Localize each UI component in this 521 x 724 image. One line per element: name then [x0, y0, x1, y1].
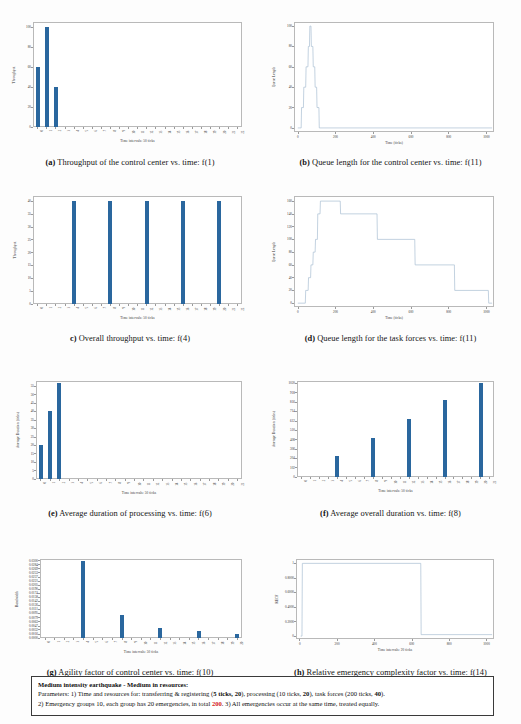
x-tick-label: 3 [67, 307, 71, 309]
notice-l2-e: ), task forces (200 ticks, [309, 690, 374, 697]
y-tick-mark [295, 477, 297, 478]
x-tick-label: 14 [168, 131, 172, 134]
y-tick-label: 55 [23, 384, 34, 388]
x-tick-mark [373, 132, 374, 134]
plot-area [297, 381, 494, 477]
y-tick-label: 0.0047 [22, 624, 38, 628]
x-tick-mark [174, 304, 175, 306]
notice-l3-c: . 3) All emergencies occur at the same t… [222, 700, 379, 707]
x-tick-mark [73, 638, 74, 640]
notice-l3-total: 200 [212, 700, 222, 707]
y-tick-mark [38, 581, 40, 582]
x-tick-mark [162, 479, 163, 481]
y-tick-label: 0.0079 [22, 616, 38, 620]
y-tick-label: 0.0126 [22, 603, 38, 607]
y-tick-label: 816 [279, 400, 295, 404]
x-tick-mark [480, 477, 481, 479]
notice-line-3: 2) Emergency groups 10, each group has 2… [38, 699, 488, 708]
x-tick-label: 16 [448, 481, 452, 484]
x-tick-mark [87, 479, 88, 481]
plot-area [33, 22, 242, 127]
x-tick-mark [119, 127, 120, 129]
x-tick-mark [436, 477, 437, 479]
x-tick-label: 9 [384, 480, 388, 482]
y-tick-label: 0.0158 [22, 595, 38, 599]
x-tick-label: 800 [446, 135, 451, 139]
y-tick-label: 0.0142 [22, 599, 38, 603]
y-tick-mark [31, 227, 33, 228]
x-tick-label: 400 [371, 135, 376, 139]
x-tick-label: 11 [140, 308, 144, 311]
x-tick-label: 1 [57, 641, 61, 643]
y-tick-label: 0.0300 [22, 559, 38, 563]
x-tick-mark [462, 477, 463, 479]
y-tick-label: 0.0174 [22, 591, 38, 595]
y-tick-mark [34, 437, 36, 438]
y-tick-label: 20 [23, 443, 34, 447]
bar [54, 87, 58, 127]
x-tick-label: 19 [230, 642, 234, 645]
chart-b: Queue Length0204060801000200400600800100… [260, 0, 521, 190]
x-tick-mark [189, 638, 190, 640]
x-tick-label: 0 [297, 135, 299, 139]
y-tick-mark [38, 585, 40, 586]
x-tick-label: 15 [192, 642, 196, 645]
x-tick-label: 17 [203, 483, 207, 486]
x-tick-label: 11 [403, 481, 407, 484]
y-tick-label: 0.0237 [22, 575, 38, 579]
x-tick-label: 1 [52, 482, 56, 484]
x-tick-mark [150, 638, 151, 640]
x-axis-label: Time intervals: 20 ticks [378, 648, 412, 652]
y-tick-mark [34, 394, 36, 395]
x-tick-mark [201, 304, 202, 306]
bar [72, 201, 76, 304]
figure-sheet: Throughput020406080100012345678910111213… [0, 0, 521, 724]
x-tick-mark [92, 127, 93, 129]
line-series [260, 190, 521, 390]
y-tick-mark [38, 621, 40, 622]
y-tick-mark [34, 428, 36, 429]
x-tick-mark [337, 477, 338, 479]
y-tick-label: 35 [20, 212, 31, 216]
x-tick-mark [134, 479, 135, 481]
x-tick-label: 11 [147, 483, 151, 486]
x-tick-label: 20 [231, 483, 235, 486]
x-tick-label: 400 [372, 642, 377, 646]
x-tick-mark [55, 127, 56, 129]
bar [371, 438, 375, 477]
chart-caption: (e) Average duration of processing vs. t… [0, 509, 260, 518]
x-tick-label: 17 [211, 642, 215, 645]
x-tick-label: 4 [85, 641, 89, 643]
y-tick-label: 40 [19, 85, 31, 89]
y-tick-label: 30 [20, 225, 31, 229]
chart-cell: Average Duration (ticks)0510152025303540… [0, 375, 260, 555]
x-tick-mark [335, 132, 336, 134]
line-series [260, 0, 521, 200]
y-tick-mark [295, 421, 297, 422]
y-tick-label: 60 [19, 65, 31, 69]
x-tick-label: 2 [58, 307, 62, 309]
x-tick-label: 1000 [483, 135, 490, 139]
y-tick-mark [38, 589, 40, 590]
notice-title: Medium intensity earthquake - Medium in … [38, 680, 488, 689]
x-tick-mark [391, 477, 392, 479]
x-tick-label: 20 [483, 481, 487, 484]
y-tick-mark [38, 617, 40, 618]
x-tick-label: 8 [112, 307, 116, 309]
x-tick-label: 22 [240, 308, 244, 311]
x-tick-mark [310, 477, 311, 479]
x-tick-mark [174, 127, 175, 129]
x-tick-mark [198, 638, 199, 640]
x-tick-mark [411, 307, 412, 309]
y-axis-label: Bandwidth [15, 591, 19, 607]
x-tick-mark [40, 479, 41, 481]
x-tick-mark [181, 479, 182, 481]
x-tick-label: 21 [492, 481, 496, 484]
notice-l2-g: ). [381, 690, 385, 697]
x-tick-mark [143, 479, 144, 481]
x-tick-mark [412, 639, 413, 641]
notice-box: Medium intensity earthquake - Medium in … [31, 676, 494, 716]
x-tick-label: 2 [62, 482, 66, 484]
x-tick-mark [128, 304, 129, 306]
y-tick-label: 40 [23, 409, 34, 413]
